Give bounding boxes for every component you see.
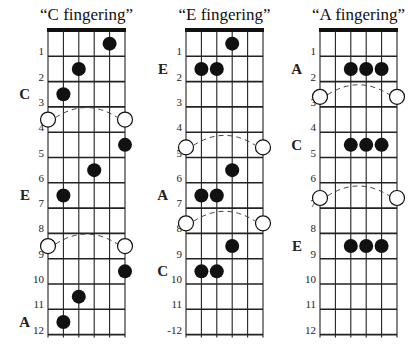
finger-dot — [375, 239, 389, 253]
finger-dot — [375, 138, 389, 152]
finger-dot — [103, 37, 117, 51]
dashed-arc — [56, 108, 118, 118]
open-circle-marker — [118, 112, 133, 127]
fret-number: 3 — [177, 96, 183, 108]
finger-dot — [194, 62, 208, 76]
fret-number: 5 — [311, 147, 317, 159]
finger-dot — [118, 138, 132, 152]
fret-number: 9 — [311, 248, 317, 260]
fret-number: 1 — [177, 45, 183, 57]
fret-number: 9 — [177, 248, 183, 260]
finger-dot — [210, 188, 224, 202]
finger-dot — [194, 264, 208, 278]
finger-dot — [344, 62, 358, 76]
diagram-title: “E fingering” — [178, 5, 270, 24]
finger-dot — [359, 138, 373, 152]
finger-dot — [56, 188, 70, 202]
dashed-arc — [194, 135, 256, 145]
open-circle-marker — [41, 239, 56, 254]
open-circle-marker — [256, 140, 271, 155]
fret-number: 6 — [311, 172, 317, 184]
fret-number: 7 — [39, 197, 45, 209]
root-note-label: E — [158, 61, 168, 77]
root-note-label: A — [19, 314, 30, 330]
open-circle-marker — [179, 216, 194, 231]
root-note-label: C — [19, 86, 30, 102]
fret-number: 2 — [177, 71, 183, 83]
finger-dot — [210, 264, 224, 278]
fret-number: 6 — [39, 172, 45, 184]
fret-number: 2 — [311, 71, 317, 83]
fret-number: 2 — [39, 71, 45, 83]
finger-dot — [87, 163, 101, 177]
nut — [185, 28, 264, 32]
open-circle-marker — [256, 216, 271, 231]
fingering-diagrams: “C fingering”123456789101112CEA “E finge… — [0, 0, 417, 354]
finger-dot — [225, 37, 239, 51]
dashed-arc — [56, 234, 118, 244]
fret-number: 12 — [305, 324, 316, 336]
open-circle-marker — [179, 140, 194, 155]
finger-dot — [56, 87, 70, 101]
finger-dot — [359, 239, 373, 253]
finger-dot — [344, 239, 358, 253]
fret-number: 11 — [305, 298, 316, 310]
fret-number: 5 — [39, 147, 45, 159]
fret-number: 8 — [311, 222, 317, 234]
finger-dot — [225, 163, 239, 177]
finger-dot — [344, 138, 358, 152]
fret-number: 7 — [177, 197, 183, 209]
root-note-label: A — [291, 61, 302, 77]
fret-number: 10 — [305, 273, 317, 285]
open-circle-marker — [390, 89, 405, 104]
finger-dot — [72, 290, 86, 304]
fret-number: 1 — [311, 45, 317, 57]
root-note-label: A — [157, 187, 168, 203]
open-circle-marker — [118, 239, 133, 254]
fret-number: 3 — [39, 96, 45, 108]
dashed-arc — [194, 211, 256, 221]
finger-dot — [118, 264, 132, 278]
root-note-label: C — [291, 137, 302, 153]
fret-number: 11 — [33, 298, 44, 310]
e-fingering-diagram: “E fingering”1234567891011-12EAC — [157, 5, 270, 338]
fret-number: 11 — [171, 298, 182, 310]
finger-dot — [375, 62, 389, 76]
fret-number: 12 — [33, 324, 44, 336]
root-note-label: E — [20, 187, 30, 203]
fret-number: 1 — [39, 45, 45, 57]
open-circle-marker — [313, 190, 328, 205]
finger-dot — [210, 62, 224, 76]
fret-number: 10 — [171, 273, 183, 285]
open-circle-marker — [41, 112, 56, 127]
open-circle-marker — [390, 190, 405, 205]
a-fingering-diagram: “A fingering”123456789101112ACE — [291, 5, 405, 338]
fret-number: 4 — [311, 121, 317, 133]
nut — [47, 28, 126, 32]
finger-dot — [56, 315, 70, 329]
fret-number: 4 — [177, 121, 183, 133]
diagram-title: “A fingering” — [312, 5, 405, 24]
dashed-arc — [328, 186, 390, 196]
finger-dot — [359, 62, 373, 76]
finger-dot — [194, 188, 208, 202]
finger-dot — [72, 62, 86, 76]
fret-number: 8 — [39, 222, 45, 234]
diagram-title: “C fingering” — [40, 5, 133, 24]
dashed-arc — [328, 85, 390, 95]
root-note-label: E — [292, 238, 302, 254]
fret-number: -12 — [167, 324, 182, 336]
fret-number: 10 — [33, 273, 45, 285]
finger-dot — [225, 239, 239, 253]
fret-number: 6 — [177, 172, 183, 184]
root-note-label: C — [157, 263, 168, 279]
nut — [319, 28, 398, 32]
c-fingering-diagram: “C fingering”123456789101112CEA — [19, 5, 133, 338]
open-circle-marker — [313, 89, 328, 104]
